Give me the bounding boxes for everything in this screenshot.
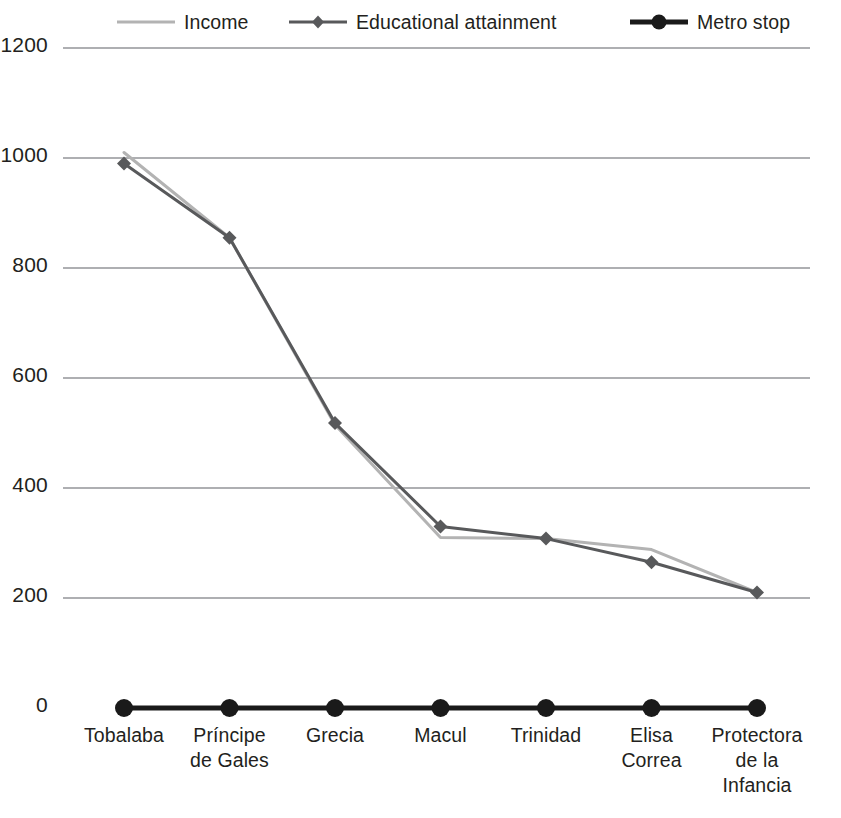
data-point-marker	[645, 555, 659, 569]
y-axis-tick-label: 0	[0, 693, 48, 717]
plot-area: 120010008006004002000 TobalabaPríncipe d…	[0, 0, 841, 818]
chart-canvas	[0, 0, 841, 818]
data-point-marker	[748, 699, 766, 717]
y-axis-tick-label: 600	[0, 363, 48, 387]
gridlines	[63, 48, 810, 598]
data-point-marker	[537, 699, 555, 717]
y-axis-tick-label: 400	[0, 473, 48, 497]
series-layer	[115, 153, 766, 718]
data-point-marker	[326, 699, 344, 717]
y-axis-tick-label: 1200	[0, 33, 48, 57]
data-point-marker	[539, 532, 553, 546]
x-axis-tick-label: Protectora de la Infancia	[687, 723, 827, 798]
series-metro-stop	[115, 699, 766, 717]
line-chart: Income Educational attainment Metro stop	[0, 0, 841, 818]
y-axis-tick-label: 200	[0, 583, 48, 607]
data-point-marker	[432, 699, 450, 717]
data-point-marker	[115, 699, 133, 717]
data-point-marker	[221, 699, 239, 717]
y-axis-tick-label: 800	[0, 253, 48, 277]
data-point-marker	[643, 699, 661, 717]
y-axis-tick-label: 1000	[0, 143, 48, 167]
